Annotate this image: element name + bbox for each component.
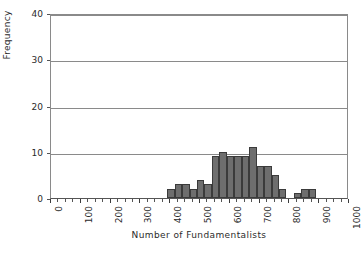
bar [257, 166, 264, 198]
x-tick-label-0: 0 [54, 206, 64, 212]
x-tick-label-800: 800 [292, 206, 302, 223]
x-tick-minor-250 [125, 199, 126, 202]
bar [242, 156, 249, 198]
x-tick-minor-75 [72, 199, 73, 202]
x-tick-major-200 [110, 199, 111, 203]
x-tick-minor-950 [333, 199, 334, 202]
x-tick-minor-25 [57, 199, 58, 202]
bar [309, 189, 316, 198]
x-tick-minor-850 [303, 199, 304, 202]
x-tick-label-900: 900 [322, 206, 332, 223]
x-tick-major-600 [229, 199, 230, 203]
x-tick-label-700: 700 [263, 206, 273, 223]
bar [175, 184, 182, 198]
x-tick-minor-675 [251, 199, 252, 202]
bar [264, 166, 271, 198]
x-tick-label-text: 300 [143, 206, 153, 223]
x-tick-minor-225 [117, 199, 118, 202]
x-tick-minor-375 [162, 199, 163, 202]
bar [272, 175, 279, 198]
histogram-chart: Frequency 010203040 01002003004005006007… [0, 0, 364, 253]
y-tick-label-20: 20 [0, 102, 43, 112]
x-tick-label-text: 400 [173, 206, 183, 223]
x-tick-minor-325 [147, 199, 148, 202]
x-tick-label-600: 600 [233, 206, 243, 223]
x-tick-label-500: 500 [203, 206, 213, 223]
x-tick-minor-125 [87, 199, 88, 202]
x-tick-minor-725 [266, 199, 267, 202]
x-tick-major-100 [80, 199, 81, 203]
y-tick-label-30: 30 [0, 55, 43, 65]
x-tick-minor-875 [311, 199, 312, 202]
x-tick-label-text: 700 [263, 206, 273, 223]
x-tick-minor-625 [236, 199, 237, 202]
bar [167, 189, 174, 198]
x-tick-label-text: 900 [322, 206, 332, 223]
x-tick-label-1000: 1000 [352, 206, 362, 229]
x-tick-major-500 [199, 199, 200, 203]
x-tick-minor-450 [184, 199, 185, 202]
x-tick-minor-150 [95, 199, 96, 202]
x-tick-major-1000 [348, 199, 349, 203]
x-tick-minor-825 [296, 199, 297, 202]
x-tick-minor-750 [274, 199, 275, 202]
x-tick-label-text: 0 [54, 206, 64, 212]
x-tick-label-text: 1000 [352, 206, 362, 229]
y-tick-label-40: 40 [0, 9, 43, 19]
bar [301, 189, 308, 198]
bar [294, 193, 301, 198]
x-tick-label-text: 800 [292, 206, 302, 223]
x-tick-minor-425 [177, 199, 178, 202]
plot-area [50, 14, 348, 199]
x-tick-minor-550 [214, 199, 215, 202]
bar [227, 156, 234, 198]
x-tick-major-800 [288, 199, 289, 203]
x-axis-title: Number of Fundamentalists [50, 230, 348, 240]
x-tick-minor-525 [206, 199, 207, 202]
bar [249, 147, 256, 198]
x-tick-label-400: 400 [173, 206, 183, 223]
x-tick-label-text: 500 [203, 206, 213, 223]
x-tick-label-text: 200 [114, 206, 124, 223]
bar-series [51, 15, 347, 198]
x-tick-minor-925 [326, 199, 327, 202]
x-tick-major-0 [50, 199, 51, 203]
bar [197, 180, 204, 199]
x-tick-minor-650 [244, 199, 245, 202]
x-tick-label-200: 200 [114, 206, 124, 223]
x-tick-label-100: 100 [84, 206, 94, 223]
bar [190, 189, 197, 198]
x-tick-minor-975 [341, 199, 342, 202]
x-tick-major-900 [318, 199, 319, 203]
bar [204, 184, 211, 198]
x-tick-major-700 [259, 199, 260, 203]
x-tick-minor-475 [192, 199, 193, 202]
x-tick-label-300: 300 [143, 206, 153, 223]
bar [279, 189, 286, 198]
bar [234, 156, 241, 198]
bar [212, 156, 219, 198]
x-tick-major-300 [139, 199, 140, 203]
x-tick-minor-275 [132, 199, 133, 202]
x-tick-label-text: 100 [84, 206, 94, 223]
x-tick-minor-575 [221, 199, 222, 202]
bar [182, 184, 189, 198]
bar [219, 152, 226, 198]
x-tick-major-400 [169, 199, 170, 203]
x-tick-minor-775 [281, 199, 282, 202]
x-tick-label-text: 600 [233, 206, 243, 223]
y-tick-label-10: 10 [0, 148, 43, 158]
y-tick-label-0: 0 [0, 194, 43, 204]
x-tick-minor-175 [102, 199, 103, 202]
x-tick-minor-350 [154, 199, 155, 202]
x-tick-minor-50 [65, 199, 66, 202]
